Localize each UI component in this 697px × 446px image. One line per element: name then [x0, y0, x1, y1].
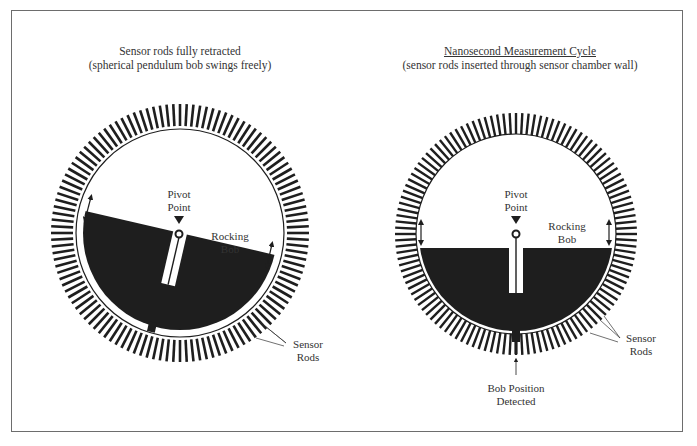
- right-bob-label-line1: Rocking: [537, 220, 597, 233]
- bob-position-detected-label: Bob Position Detected: [476, 382, 556, 408]
- left-sensor-label-line1: Sensor: [286, 338, 330, 351]
- left-pivot-label: Pivot Point: [154, 188, 204, 214]
- left-pivot-label-line2: Point: [154, 201, 204, 214]
- right-sensor-label-line2: Rods: [619, 345, 663, 358]
- left-bob-label-line1: Rocking: [200, 230, 260, 243]
- right-pivot-pointer-icon: [511, 216, 521, 224]
- detected-label-line2: Detected: [476, 395, 556, 408]
- left-sensor-label-line2: Rods: [286, 351, 330, 364]
- right-pivot-icon: [513, 231, 520, 238]
- right-sensor-label: Sensor Rods: [619, 332, 663, 358]
- left-bob-label-line2: Bob: [200, 243, 260, 256]
- left-sensor-label: Sensor Rods: [286, 338, 330, 364]
- right-pivot-label-line1: Pivot: [491, 188, 541, 201]
- right-bob-label-line2: Bob: [537, 233, 597, 246]
- right-pivot-label: Pivot Point: [491, 188, 541, 214]
- left-pivot-icon: [176, 231, 183, 238]
- left-pivot-label-line1: Pivot: [154, 188, 204, 201]
- left-sensor-leaders: [256, 322, 286, 346]
- detected-label-line1: Bob Position: [476, 382, 556, 395]
- left-bob-label: Rocking Bob: [200, 230, 260, 256]
- right-sensor-label-line1: Sensor: [619, 332, 663, 345]
- right-bob-label: Rocking Bob: [537, 220, 597, 246]
- right-bob-pointer: [512, 328, 520, 342]
- right-pivot-label-line2: Point: [491, 201, 541, 214]
